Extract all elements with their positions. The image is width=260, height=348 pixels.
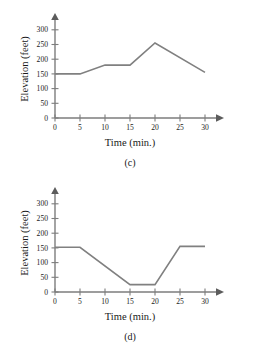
y-tick-label-d-100: 100 — [37, 258, 49, 267]
figure-caption-c: (c) — [124, 157, 135, 169]
x-tick-label-d-10: 10 — [101, 297, 109, 306]
x-axis-title-c: Time (min.) — [105, 137, 156, 149]
x-tick-label-d-5: 5 — [78, 297, 82, 306]
chart-c-xticks: 0 5 10 15 20 25 30 — [53, 115, 209, 133]
y-axis-arrow-d — [51, 187, 59, 194]
y-tick-label-d-200: 200 — [37, 229, 49, 238]
x-axis-arrow-d — [216, 288, 224, 296]
y-tick-label-d-50: 50 — [40, 273, 48, 282]
x-tick-label-c-0: 0 — [53, 123, 57, 132]
y-tick-label-d-250: 250 — [37, 214, 49, 223]
data-series-line-d — [55, 246, 205, 284]
y-tick-label-c-100: 100 — [37, 84, 49, 93]
figure-c: 0 5 10 15 20 25 30 0 50 100 150 200 250 … — [0, 0, 260, 174]
y-tick-label-c-0: 0 — [44, 114, 48, 123]
figure-d: 0 5 10 15 20 25 30 0 50 100 150 200 250 … — [0, 174, 260, 348]
chart-d-xticks: 0 5 10 15 20 25 30 — [53, 289, 209, 307]
chart-c-axes — [51, 13, 224, 122]
figure-caption-d: (d) — [124, 331, 136, 343]
y-tick-label-c-250: 250 — [37, 40, 49, 49]
x-tick-label-d-0: 0 — [53, 297, 57, 306]
x-axis-title-d: Time (min.) — [105, 311, 156, 323]
y-axis-title-d: Elevation (feet) — [19, 210, 31, 276]
y-tick-label-c-200: 200 — [37, 55, 49, 64]
chart-d-svg: 0 5 10 15 20 25 30 0 50 100 150 200 250 … — [0, 174, 260, 348]
x-tick-label-d-30: 30 — [201, 297, 209, 306]
y-axis-title-c: Elevation (feet) — [19, 36, 31, 102]
data-series-line-c — [55, 43, 205, 74]
x-tick-label-d-15: 15 — [126, 297, 134, 306]
y-tick-label-c-300: 300 — [37, 25, 49, 34]
x-tick-label-d-25: 25 — [176, 297, 184, 306]
x-tick-label-d-20: 20 — [151, 297, 159, 306]
y-tick-label-c-50: 50 — [40, 99, 48, 108]
x-tick-label-c-10: 10 — [101, 123, 109, 132]
y-tick-label-c-150: 150 — [37, 70, 49, 79]
y-tick-label-d-150: 150 — [37, 244, 49, 253]
chart-c-svg: 0 5 10 15 20 25 30 0 50 100 150 200 250 … — [0, 0, 260, 174]
chart-d-axes — [51, 187, 224, 296]
x-axis-arrow-c — [216, 114, 224, 122]
x-tick-label-c-5: 5 — [78, 123, 82, 132]
y-tick-label-d-0: 0 — [44, 288, 48, 297]
x-tick-label-c-15: 15 — [126, 123, 134, 132]
y-tick-label-d-300: 300 — [37, 199, 49, 208]
x-tick-label-c-30: 30 — [201, 123, 209, 132]
x-tick-label-c-25: 25 — [176, 123, 184, 132]
x-tick-label-c-20: 20 — [151, 123, 159, 132]
y-axis-arrow-c — [51, 13, 59, 20]
